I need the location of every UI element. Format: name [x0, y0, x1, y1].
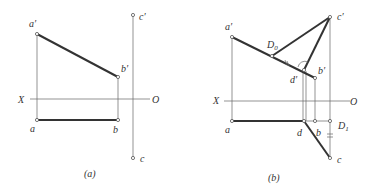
label-D1: D1 — [337, 120, 349, 133]
point-b-prime — [116, 75, 119, 78]
label-a: a — [30, 123, 35, 134]
point-d-prime — [302, 68, 305, 71]
panel-a: X O a′ b′ c′ a b c (a) — [17, 11, 159, 180]
label-c-prime: c′ — [139, 11, 146, 22]
point-c-prime — [131, 13, 134, 16]
axis-label-x: X — [212, 95, 220, 106]
label-d-prime: d′ — [290, 74, 298, 85]
point-a — [230, 119, 233, 122]
label-d: d — [297, 127, 303, 138]
label-a: a — [225, 124, 230, 135]
axis-label-o: O — [350, 96, 357, 107]
point-d — [302, 119, 305, 122]
projection-diagram: X O a′ b′ c′ a b c (a) X O — [0, 0, 372, 193]
point-b — [116, 118, 119, 121]
point-b-prime — [313, 76, 316, 79]
label-a-prime: a′ — [29, 18, 37, 29]
axis-label-o: O — [152, 94, 159, 105]
label-b-prime: b′ — [318, 65, 326, 76]
label-c-prime: c′ — [337, 11, 344, 22]
caption-b: (b) — [268, 172, 280, 184]
label-b: b — [113, 124, 118, 135]
panel-b: X O a′ D0 d′ b′ c′ a d — [212, 11, 357, 184]
line-a-prime-b-prime — [37, 34, 118, 77]
caption-a: (a) — [84, 168, 96, 180]
point-c — [131, 156, 134, 159]
label-c: c — [337, 154, 342, 165]
axis-label-x: X — [17, 94, 25, 105]
label-b-prime: b′ — [121, 63, 129, 74]
label-c: c — [140, 153, 145, 164]
point-D1 — [328, 119, 331, 122]
label-b: b — [316, 127, 321, 138]
label-D0: D0 — [266, 39, 278, 52]
point-D0 — [270, 54, 273, 57]
point-a-prime — [35, 32, 38, 35]
point-b — [313, 119, 316, 122]
point-a-prime — [230, 35, 233, 38]
point-c — [328, 156, 331, 159]
point-a — [35, 118, 38, 121]
point-c-prime — [328, 15, 331, 18]
label-a-prime: a′ — [225, 21, 233, 32]
